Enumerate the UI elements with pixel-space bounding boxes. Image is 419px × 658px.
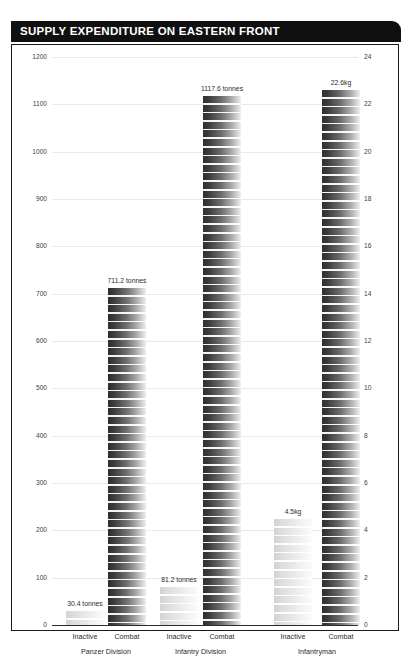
bar-infantryman-combat: [322, 90, 360, 625]
y-axis-tick-right: 12: [364, 337, 394, 344]
plot-area: [52, 57, 358, 625]
y-axis-tick-left: 1100: [17, 100, 47, 107]
y-axis-tick-left: 100: [17, 574, 47, 581]
y-axis-tick-left: 300: [17, 479, 47, 486]
bar-value-label: 1117.6 tonnes: [201, 85, 243, 92]
y-axis-tick-left: 1200: [17, 53, 47, 60]
bar-fill: [66, 611, 104, 625]
bar-value-label: 711.2 tonnes: [108, 277, 147, 284]
y-axis-tick-right: 10: [364, 384, 394, 391]
y-axis-tick-right: 20: [364, 148, 394, 155]
chart-figure: SUPPLY EXPENDITURE ON EASTERN FRONT 0100…: [11, 21, 401, 633]
bar-fill: [203, 96, 241, 625]
y-axis-tick-right: 18: [364, 195, 394, 202]
y-axis-tick-left: 1000: [17, 148, 47, 155]
bar-infantry-division-inactive: [160, 587, 198, 625]
x-axis-category-label: Combat: [328, 632, 353, 641]
bar-panzer-division-combat: [108, 288, 146, 625]
page-title: SUPPLY EXPENDITURE ON EASTERN FRONT: [20, 25, 280, 37]
y-axis-tick-right: 14: [364, 290, 394, 297]
bar-fill: [160, 587, 198, 625]
bar-value-label: 4.5kg: [285, 508, 302, 515]
y-axis-tick-left: 500: [17, 384, 47, 391]
y-axis-tick-left: 200: [17, 526, 47, 533]
chart-title-bar: SUPPLY EXPENDITURE ON EASTERN FRONT: [11, 21, 401, 42]
x-axis-category-label: Inactive: [281, 632, 306, 641]
bar-fill: [322, 90, 360, 625]
x-axis-group-label: Infantry Division: [175, 647, 226, 656]
y-axis-tick-left: 700: [17, 290, 47, 297]
y-axis-tick-right: 24: [364, 53, 394, 60]
y-axis-tick-right: 16: [364, 242, 394, 249]
bar-value-label: 30.4 tonnes: [67, 600, 103, 607]
bar-value-label: 22.6kg: [331, 79, 351, 86]
y-axis-tick-right: 0: [364, 621, 394, 628]
y-axis-tick-right: 6: [364, 479, 394, 486]
y-axis-tick-right: 8: [364, 432, 394, 439]
bar-value-label: 81.2 tonnes: [161, 576, 197, 583]
y-axis-tick-left: 600: [17, 337, 47, 344]
x-axis-line: [52, 625, 358, 626]
x-axis-category-label: Combat: [114, 632, 139, 641]
bar-infantry-division-combat: [203, 96, 241, 625]
bar-panzer-division-inactive: [66, 611, 104, 625]
y-axis-tick-left: 800: [17, 242, 47, 249]
bar-infantryman-inactive: [274, 519, 312, 626]
x-axis-group-label: Panzer Division: [81, 647, 131, 656]
bar-fill: [274, 519, 312, 626]
y-axis-tick-left: 0: [17, 621, 47, 628]
y-axis-tick-left: 900: [17, 195, 47, 202]
gridline: [52, 57, 358, 58]
y-axis-tick-right: 2: [364, 574, 394, 581]
y-axis-tick-right: 22: [364, 100, 394, 107]
x-axis-category-label: Inactive: [167, 632, 192, 641]
y-axis-tick-left: 400: [17, 432, 47, 439]
x-axis-group-label: Infantryman: [298, 647, 336, 656]
x-axis-category-label: Combat: [209, 632, 234, 641]
x-axis-category-label: Inactive: [73, 632, 98, 641]
y-axis-tick-right: 4: [364, 526, 394, 533]
bar-fill: [108, 288, 146, 625]
